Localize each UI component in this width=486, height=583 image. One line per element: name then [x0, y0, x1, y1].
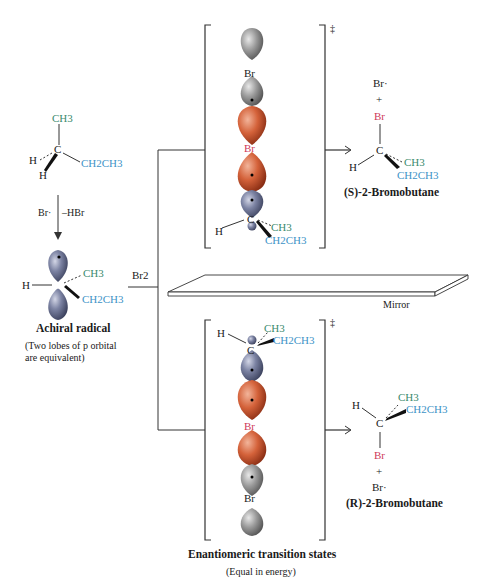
radical-ch3: CH3 [83, 268, 104, 279]
s-product-br: Br [374, 111, 385, 122]
radical-h: H [22, 280, 30, 291]
s-product-carbon: C [376, 145, 383, 156]
bottom-ts-ch2ch3: CH2CH3 [273, 335, 315, 346]
top-ts-br-top: Br [244, 68, 255, 79]
top-ts-carbon: C [247, 214, 254, 225]
byproduct-hbr: –HBr [62, 208, 84, 218]
br2-reagent-label: Br2 [132, 270, 149, 281]
radical-note-line1: (Two lobes of p orbital [25, 341, 117, 351]
starting-ch3: CH3 [52, 113, 73, 124]
bottom-ts-br-bottom: Br [244, 493, 255, 504]
r-product-ch3: CH3 [398, 392, 419, 403]
s-product-ch2ch3: CH2CH3 [397, 170, 439, 181]
mirror-label: Mirror [383, 300, 410, 310]
bottom-ts-carbon: C [247, 345, 254, 356]
starting-ch2ch3: CH2CH3 [81, 158, 123, 169]
arrow-head-icon [54, 232, 62, 240]
reagent-br-radical: Br· [38, 208, 51, 218]
radical-label: Achiral radical [36, 323, 110, 335]
bottom-ts-orbitals [238, 336, 267, 537]
top-ts-ch2ch3: CH2CH3 [265, 235, 307, 246]
s-product-ch3: CH3 [404, 157, 425, 168]
starting-h-bottom: H [39, 170, 47, 181]
s-product-h: H [349, 162, 357, 173]
r-product-br-radical: Br· [372, 482, 387, 493]
r-product-h: H [352, 400, 360, 411]
starting-h-left: H [29, 155, 37, 166]
r-product-name: (R)-2-Bromobutane [346, 498, 443, 510]
mirror-plane [168, 275, 468, 296]
footer-title: Enantiomeric transition states [188, 549, 336, 561]
top-ts-ch3: CH3 [271, 222, 292, 233]
r-product-carbon: C [376, 418, 383, 429]
starting-carbon: C [54, 144, 61, 155]
bottom-ts-ch3: CH3 [264, 323, 285, 334]
r-product-br: Br [374, 450, 385, 461]
bottom-ts-dagger: ‡ [330, 318, 335, 328]
s-product-name: (S)-2-Bromobutane [344, 187, 439, 199]
radical-ch2ch3: CH2CH3 [82, 294, 124, 305]
bottom-ts-h: H [217, 328, 225, 339]
bottom-ts-bracket [205, 320, 350, 540]
top-ts-dagger: ‡ [330, 24, 335, 34]
top-ts-br-mid: Br [244, 143, 255, 154]
s-product-br-radical: Br· [373, 78, 388, 89]
top-ts-h: H [215, 226, 223, 237]
diagram-graphics [0, 0, 486, 583]
bottom-ts-br-mid: Br [244, 421, 255, 432]
footer-subtitle: (Equal in energy) [226, 567, 296, 577]
r-product-plus: + [376, 466, 382, 477]
top-ts-orbitals [238, 28, 267, 231]
wedge-bond-icon [64, 285, 80, 299]
wedge-bond-icon [384, 154, 400, 169]
radical-note-line2: are equivalent) [25, 353, 85, 363]
top-ts-bracket [205, 25, 350, 248]
wedge-bond-icon [385, 409, 406, 421]
s-product-plus: + [376, 94, 382, 105]
r-product-ch2ch3: CH2CH3 [406, 404, 448, 415]
radical-carbon: C [54, 280, 61, 291]
